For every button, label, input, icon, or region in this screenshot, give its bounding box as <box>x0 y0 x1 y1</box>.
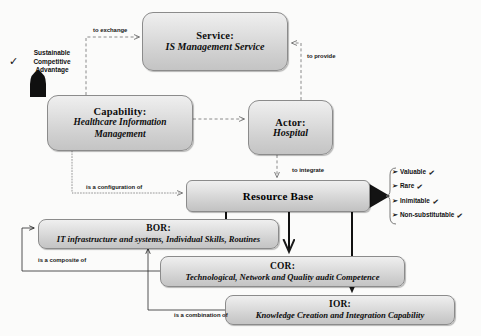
node-capability-title: Capability: <box>94 106 147 117</box>
check-icon: ✓ <box>427 168 435 178</box>
node-resource-base-title: Resource Base <box>243 191 314 202</box>
bullet-arrow-icon: ➢ <box>392 168 398 175</box>
edge-label-to-provide: to provide <box>307 53 335 59</box>
edge-capability-to-service <box>86 37 139 95</box>
node-cor[interactable]: COR: Technological, Network and Quality … <box>160 256 405 287</box>
check-icon: ✓ <box>416 183 424 193</box>
vrin-label-non-substitutable: Non-substitutable <box>400 211 454 218</box>
node-bor[interactable]: BOR: IT infrastructure and systems, Indi… <box>38 219 279 249</box>
edge-actor-to-service <box>292 43 301 100</box>
node-service-title: Service: <box>196 30 234 41</box>
bullet-arrow-icon: ➢ <box>392 182 398 189</box>
node-capability[interactable]: Capability: Healthcare Information Manag… <box>47 95 193 151</box>
node-bor-title: BOR: <box>146 223 171 234</box>
sustainable-competitive-advantage-label: ✓ Sustainable Competitive Advantage <box>20 49 84 75</box>
bullet-arrow-icon: ➢ <box>392 211 398 218</box>
vrin-item-valuable: ➢ Valuable ✓ <box>392 164 481 179</box>
vrin-label-rare: Rare <box>400 182 414 189</box>
edge-label-to-integrate: to integrate <box>292 167 324 173</box>
sca-line-1: Sustainable <box>20 49 84 58</box>
node-ior-title: IOR: <box>329 299 351 310</box>
node-cor-subtitle: Technological, Network and Quality audit… <box>186 272 380 283</box>
node-ior-subtitle: Knowledge Creation and Integration Capab… <box>256 310 425 321</box>
node-bor-subtitle: IT infrastructure and systems, Individua… <box>57 234 260 245</box>
node-service-subtitle: IS Management Service <box>166 41 265 54</box>
sca-line-3: Advantage <box>20 66 84 75</box>
node-cor-title: COR: <box>270 261 295 272</box>
edge-label-is-a-composite-of: is a composite of <box>38 257 86 263</box>
edge-label-is-a-configuration-of: is a configuration of <box>86 184 142 190</box>
check-icon: ✓ <box>9 57 18 66</box>
sca-line-2: Competitive <box>20 58 84 67</box>
diagram-canvas: Service: IS Management Service Capabilit… <box>0 0 481 336</box>
vrin-item-rare: ➢ Rare ✓ <box>392 179 481 194</box>
vrin-item-inimitable: ➢ Inimitable ✓ <box>392 193 481 208</box>
vrin-label-valuable: Valuable <box>400 168 426 175</box>
vrin-item-non-substitutable: ➢ Non-substitutable ✓ <box>392 208 481 223</box>
node-service[interactable]: Service: IS Management Service <box>142 12 288 71</box>
check-icon: ✓ <box>456 212 464 222</box>
node-capability-subtitle: Healthcare Information Management <box>52 117 188 140</box>
node-resource-base[interactable]: Resource Base <box>186 180 370 212</box>
bullet-arrow-icon: ➢ <box>392 197 398 204</box>
vrin-label-inimitable: Inimitable <box>400 197 430 204</box>
node-ior[interactable]: IOR: Knowledge Creation and Integration … <box>225 295 455 325</box>
check-icon: ✓ <box>431 197 439 207</box>
vrin-attribute-list: ➢ Valuable ✓ ➢ Rare ✓ ➢ Inimitable ✓ ➢ N… <box>392 164 481 222</box>
edge-label-is-a-combination-of: is a combination of <box>174 312 228 318</box>
node-actor-subtitle: Hospital <box>273 128 308 139</box>
node-actor[interactable]: Actor: Hospital <box>248 100 333 155</box>
edge-label-to-exchange: to exchange <box>93 27 127 33</box>
